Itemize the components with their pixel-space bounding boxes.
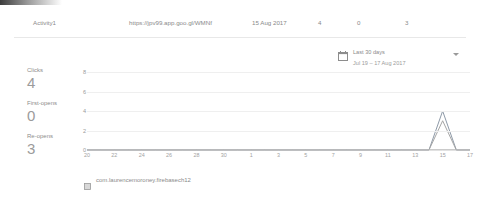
x-axis-tick-24: 24 bbox=[139, 152, 145, 159]
x-axis-tick-22: 22 bbox=[111, 152, 117, 159]
x-axis-tick-9: 9 bbox=[359, 152, 362, 159]
cell-clicks: 4 bbox=[318, 18, 321, 28]
metric-first-opens: First-opens 0 bbox=[27, 99, 85, 124]
cell-activity-url[interactable]: https://jpv99.app.goo.gl/WMNf bbox=[129, 18, 212, 28]
gridline-8 bbox=[87, 72, 470, 73]
activity-table-row[interactable]: Activity1 https://jpv99.app.goo.gl/WMNf … bbox=[0, 18, 480, 36]
metric-re-opens-value: 3 bbox=[27, 140, 85, 157]
top-edge-shading bbox=[0, 0, 62, 5]
x-axis-tick-20: 20 bbox=[84, 152, 90, 159]
chart-plot-area bbox=[87, 72, 470, 150]
x-axis-tick-17: 17 bbox=[467, 152, 473, 159]
x-axis-tick-30: 30 bbox=[221, 152, 227, 159]
date-range-preset-label: Last 30 days bbox=[353, 49, 385, 55]
date-range-picker[interactable]: Last 30 days Jul 19 – 17 Aug 2017 bbox=[338, 45, 406, 67]
activity-line-chart: 02468 2022242628301357911131517 bbox=[78, 72, 470, 162]
x-axis-tick-15: 15 bbox=[440, 152, 446, 159]
gridline-2 bbox=[87, 131, 470, 132]
calendar-icon bbox=[338, 51, 348, 61]
y-axis-tick-2: 2 bbox=[83, 128, 86, 134]
metric-re-opens: Re-opens 3 bbox=[27, 132, 85, 157]
cell-activity-date: 15 Aug 2017 bbox=[252, 18, 287, 28]
x-axis-tick-1: 1 bbox=[250, 152, 253, 159]
chevron-down-icon[interactable] bbox=[453, 53, 459, 56]
series-line-re-opens bbox=[87, 121, 470, 150]
date-range-value-label: Jul 19 – 17 Aug 2017 bbox=[353, 60, 406, 66]
x-axis-tick-11: 11 bbox=[385, 152, 391, 159]
x-axis-tick-7: 7 bbox=[332, 152, 335, 159]
metrics-summary: Clicks 4 First-opens 0 Re-opens 3 bbox=[27, 66, 85, 165]
metric-clicks-label: Clicks bbox=[27, 66, 85, 74]
x-axis-tick-13: 13 bbox=[412, 152, 418, 159]
cell-re-opens: 3 bbox=[405, 18, 408, 28]
metric-re-opens-label: Re-opens bbox=[27, 132, 85, 140]
metric-first-opens-value: 0 bbox=[27, 107, 85, 124]
y-axis-tick-4: 4 bbox=[83, 108, 86, 114]
metric-clicks-value: 4 bbox=[27, 74, 85, 91]
app-package-footer: com.laurencemoroney.firebasech12 bbox=[84, 176, 191, 183]
app-package-name: com.laurencemoroney.firebasech12 bbox=[96, 177, 191, 183]
gridline-6 bbox=[87, 92, 470, 93]
metric-clicks: Clicks 4 bbox=[27, 66, 85, 91]
android-app-icon bbox=[84, 176, 91, 183]
x-axis-labels: 2022242628301357911131517 bbox=[87, 152, 470, 162]
x-axis-tick-26: 26 bbox=[166, 152, 172, 159]
x-axis-tick-3: 3 bbox=[277, 152, 280, 159]
gridline-4 bbox=[87, 111, 470, 112]
row-divider bbox=[14, 37, 466, 38]
y-axis-tick-8: 8 bbox=[83, 69, 86, 75]
cell-activity-name: Activity1 bbox=[33, 18, 56, 28]
metric-first-opens-label: First-opens bbox=[27, 99, 85, 107]
x-axis-tick-5: 5 bbox=[304, 152, 307, 159]
cell-first-opens: 0 bbox=[357, 18, 360, 28]
y-axis-tick-6: 6 bbox=[83, 89, 86, 95]
x-axis-tick-28: 28 bbox=[193, 152, 199, 159]
